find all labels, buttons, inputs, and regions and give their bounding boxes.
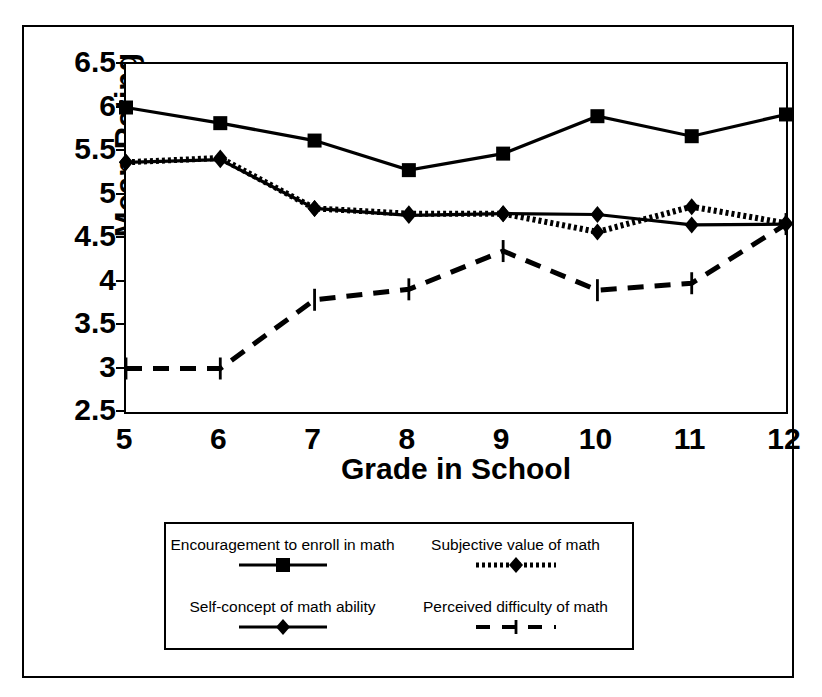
series-line: [126, 158, 786, 232]
legend-item-label: Perceived difficulty of math: [423, 598, 608, 615]
x-tick-label: 10: [565, 424, 625, 454]
data-point-marker: [690, 272, 693, 294]
y-tick-label: 3: [0, 352, 116, 382]
x-tick-label: 6: [188, 424, 248, 454]
y-tick-mark: [116, 410, 124, 412]
series-canvas: [126, 64, 786, 412]
data-point-marker: [402, 207, 416, 224]
y-tick-label: 5: [0, 178, 116, 208]
data-point-marker: [685, 129, 699, 143]
series-line: [126, 160, 786, 225]
data-point-marker: [785, 213, 788, 235]
data-point-marker: [590, 109, 604, 123]
legend-item-label: Subjective value of math: [431, 536, 600, 553]
chart-area: Mean Rating 2.533.544.555.566.5 56789101…: [24, 27, 796, 497]
x-tick-label: 5: [94, 424, 154, 454]
y-tick-mark: [116, 323, 124, 325]
x-tick-label: 7: [283, 424, 343, 454]
figure-root: Mean Rating 2.533.544.555.566.5 56789101…: [0, 0, 822, 697]
data-point-marker: [219, 358, 222, 380]
y-tick-mark: [116, 193, 124, 195]
y-tick-mark: [116, 62, 124, 64]
data-point-marker: [590, 223, 604, 240]
legend-item[interactable]: Encouragement to enroll in math: [166, 524, 399, 586]
legend-item-swatch: [235, 618, 331, 636]
legend-item-swatch: [468, 556, 564, 574]
legend-item[interactable]: Self-concept of math ability: [166, 586, 399, 648]
data-point-marker: [685, 198, 699, 215]
data-point-marker: [119, 101, 133, 115]
y-tick-mark: [116, 367, 124, 369]
x-tick-label: 9: [471, 424, 531, 454]
figure-frame: Mean Rating 2.533.544.555.566.5 56789101…: [22, 25, 794, 678]
data-point-marker: [502, 240, 505, 262]
data-point-marker: [685, 216, 699, 233]
data-point-marker: [590, 206, 604, 223]
y-tick-label: 6.5: [0, 47, 116, 77]
y-tick-mark: [116, 280, 124, 282]
data-point-marker: [596, 279, 599, 301]
data-point-marker: [779, 107, 793, 121]
legend-item-label: Self-concept of math ability: [189, 598, 375, 615]
data-point-marker: [402, 163, 416, 177]
plot-area: [124, 62, 788, 414]
series-line: [126, 224, 786, 368]
y-tick-label: 4.5: [0, 221, 116, 251]
data-point-marker: [496, 205, 510, 222]
x-tick-label: 8: [377, 424, 437, 454]
y-tick-mark: [116, 149, 124, 151]
data-point-marker: [407, 278, 410, 300]
legend-item[interactable]: Perceived difficulty of math: [399, 586, 632, 648]
series-3: [119, 151, 793, 233]
y-tick-label: 2.5: [0, 395, 116, 425]
y-tick-label: 4: [0, 265, 116, 295]
y-tick-label: 5.5: [0, 134, 116, 164]
legend-item-swatch: [235, 556, 331, 574]
legend-item-label: Encouragement to enroll in math: [170, 536, 394, 553]
series-4: [125, 213, 788, 379]
x-tick-label: 11: [660, 424, 720, 454]
data-point-marker: [213, 116, 227, 130]
data-point-marker: [313, 289, 316, 311]
y-tick-mark: [116, 236, 124, 238]
x-axis-title: Grade in School: [124, 452, 788, 486]
legend-item-swatch: [468, 618, 564, 636]
legend-item[interactable]: Subjective value of math: [399, 524, 632, 586]
data-point-marker: [125, 358, 128, 380]
data-point-marker: [308, 134, 322, 148]
legend: Encouragement to enroll in mathSubjectiv…: [164, 522, 634, 650]
data-point-marker: [213, 151, 227, 168]
y-tick-label: 6: [0, 91, 116, 121]
data-point-marker: [496, 147, 510, 161]
figure-caption: [36, 686, 736, 697]
y-tick-label: 3.5: [0, 308, 116, 338]
x-tick-label: 12: [754, 424, 814, 454]
